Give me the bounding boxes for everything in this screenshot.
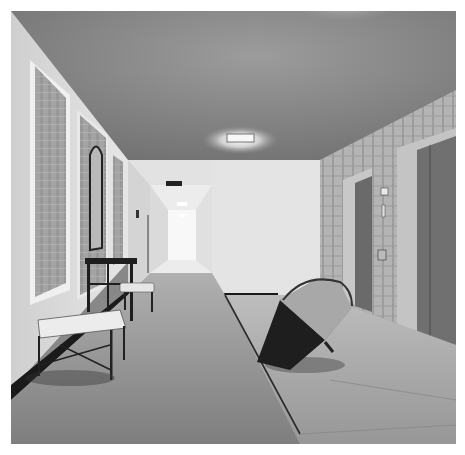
bench-near-leg-3 [123,326,125,360]
elevator-call-buttons [382,205,385,217]
corridor-end [168,210,196,260]
right-wall-plain [212,160,320,295]
photo-frame [11,11,456,444]
arched-mirror [90,147,102,251]
wall-sconce [136,210,139,218]
bench-near-leg-1 [38,336,40,376]
console-table-leg-2 [130,264,133,321]
console-table-top [85,258,137,264]
bench-far-leg-2 [124,292,126,310]
wall-panel-3 [113,155,123,265]
exit-sign [166,181,182,186]
ceiling-light [227,134,254,142]
bench-far-seat [120,283,154,292]
bench-shadow [25,370,115,386]
hallway-photo [11,11,456,444]
wall-panel-1-inner [35,66,66,297]
console-table-leg-1 [87,264,90,312]
elevator-door-2 [417,136,456,345]
corridor-ceiling-light-1 [177,202,187,206]
wall-phone [378,250,386,260]
elevator-call-panel [381,188,388,195]
bench-near-leg-2 [110,330,113,380]
console-table-leg-3 [107,264,109,308]
door-frame [147,215,149,273]
bench-far-leg-1 [151,292,153,312]
elevator-door-1 [355,176,372,312]
corridor-ceiling-light-2 [179,214,185,217]
